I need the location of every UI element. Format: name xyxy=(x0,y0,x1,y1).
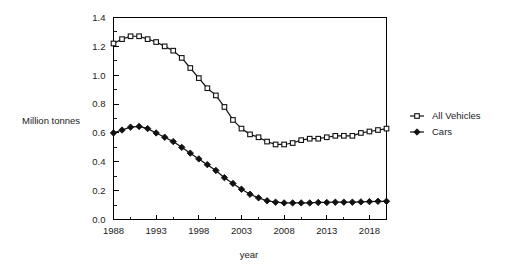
data-point-marker-filled-diamond xyxy=(289,200,295,206)
legend-label: All Vehicles xyxy=(432,110,481,121)
line-chart: 0.00.20.40.60.81.01.21.4 198819931998200… xyxy=(0,0,518,269)
series-line xyxy=(114,36,387,144)
data-point-marker-open-square xyxy=(248,132,253,137)
x-axis-ticks: 1988199319982003200820132018 xyxy=(103,215,380,236)
data-point-marker-open-square xyxy=(256,135,261,140)
y-tick-label: 1.4 xyxy=(92,12,105,23)
data-point-marker-open-square xyxy=(214,93,219,98)
data-point-marker-open-square xyxy=(316,136,321,141)
data-point-marker-filled-diamond xyxy=(315,199,321,205)
data-point-marker-open-square xyxy=(324,135,329,140)
data-point-marker-open-square xyxy=(128,34,133,39)
data-point-marker-filled-diamond xyxy=(414,129,420,135)
data-point-marker-open-square xyxy=(205,86,210,91)
y-tick-label: 0.4 xyxy=(92,156,105,167)
data-point-marker-open-square xyxy=(162,44,167,49)
data-point-marker-open-square xyxy=(333,134,338,139)
data-point-marker-open-square xyxy=(179,56,184,61)
x-axis-title: year xyxy=(240,249,258,260)
data-point-marker-open-square xyxy=(171,48,176,53)
data-point-marker-open-square xyxy=(197,76,202,81)
data-point-marker-filled-diamond xyxy=(383,198,389,204)
data-point-marker-filled-diamond xyxy=(324,199,330,205)
chart-figure: 0.00.20.40.60.81.01.21.4 198819931998200… xyxy=(0,0,518,269)
data-point-marker-open-square xyxy=(367,129,372,134)
chart-legend: All VehiclesCars xyxy=(410,110,481,137)
data-point-marker-filled-diamond xyxy=(272,199,278,205)
data-point-marker-open-square xyxy=(137,34,142,39)
data-point-marker-filled-diamond xyxy=(153,130,159,136)
y-tick-label: 1.2 xyxy=(92,41,105,52)
legend-item-all-vehicles[interactable]: All Vehicles xyxy=(410,110,481,121)
y-axis-title: Million tonnes xyxy=(22,115,80,126)
data-point-marker-filled-diamond xyxy=(204,161,210,167)
data-point-marker-filled-diamond xyxy=(264,198,270,204)
y-tick-label: 0.8 xyxy=(92,98,105,109)
x-tick-label: 2008 xyxy=(274,225,295,236)
data-point-marker-filled-diamond xyxy=(298,200,304,206)
data-point-marker-open-square xyxy=(359,131,364,136)
data-point-marker-filled-diamond xyxy=(161,134,167,140)
data-point-marker-filled-diamond xyxy=(230,180,236,186)
data-point-marker-filled-diamond xyxy=(307,200,313,206)
data-point-marker-filled-diamond xyxy=(366,198,372,204)
data-point-marker-open-square xyxy=(350,134,355,139)
data-point-marker-filled-diamond xyxy=(110,130,116,136)
data-point-marker-open-square xyxy=(299,138,304,143)
data-series-layer xyxy=(110,34,389,206)
data-point-marker-open-square xyxy=(120,37,125,42)
data-point-marker-open-square xyxy=(384,126,389,131)
data-point-marker-open-square xyxy=(154,40,159,45)
y-tick-label: 0.6 xyxy=(92,127,105,138)
data-point-marker-filled-diamond xyxy=(375,198,381,204)
data-point-marker-open-square xyxy=(188,66,193,71)
data-point-marker-filled-diamond xyxy=(358,199,364,205)
data-point-marker-filled-diamond xyxy=(332,199,338,205)
data-point-marker-filled-diamond xyxy=(255,195,261,201)
data-point-marker-open-square xyxy=(376,128,381,133)
data-point-marker-open-square xyxy=(265,139,270,144)
series-all-vehicles xyxy=(111,34,389,147)
data-point-marker-open-square xyxy=(273,142,278,147)
y-tick-label: 1.0 xyxy=(92,70,105,81)
data-point-marker-open-square xyxy=(111,41,116,46)
data-point-marker-filled-diamond xyxy=(281,200,287,206)
data-point-marker-open-square xyxy=(415,114,420,119)
data-point-marker-open-square xyxy=(307,136,312,141)
x-tick-label: 2003 xyxy=(231,225,252,236)
data-point-marker-filled-diamond xyxy=(119,127,125,133)
data-point-marker-open-square xyxy=(231,118,236,123)
data-point-marker-filled-diamond xyxy=(349,199,355,205)
y-tick-label: 0.2 xyxy=(92,185,105,196)
data-point-marker-open-square xyxy=(222,105,227,110)
legend-label: Cars xyxy=(432,126,452,137)
x-tick-label: 1993 xyxy=(146,225,167,236)
plot-frame xyxy=(114,18,387,220)
data-point-marker-filled-diamond xyxy=(247,191,253,197)
data-point-marker-open-square xyxy=(239,126,244,131)
y-tick-label: 0.0 xyxy=(92,214,105,225)
data-point-marker-filled-diamond xyxy=(136,123,142,129)
x-tick-label: 2018 xyxy=(359,225,380,236)
legend-item-cars[interactable]: Cars xyxy=(410,126,452,137)
data-point-marker-open-square xyxy=(342,134,347,139)
data-point-marker-filled-diamond xyxy=(127,124,133,130)
data-point-marker-open-square xyxy=(290,141,295,146)
x-tick-label: 1998 xyxy=(188,225,209,236)
x-tick-label: 2013 xyxy=(316,225,337,236)
data-point-marker-filled-diamond xyxy=(144,125,150,131)
data-point-marker-open-square xyxy=(145,37,150,42)
data-point-marker-filled-diamond xyxy=(341,199,347,205)
x-tick-label: 1988 xyxy=(103,225,124,236)
data-point-marker-open-square xyxy=(282,142,287,147)
